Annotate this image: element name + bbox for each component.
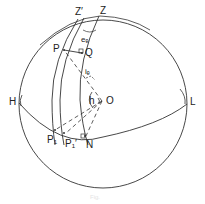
point-p <box>63 49 65 51</box>
point-n <box>84 135 86 137</box>
label-o: O <box>106 96 114 106</box>
horizon-tick-l <box>180 89 185 104</box>
label-z: Z <box>100 6 106 16</box>
figure-caption: Fig. <box>90 194 100 200</box>
dashed-o-p <box>64 50 102 101</box>
angle-ec-arc <box>83 30 96 32</box>
label-q: Q <box>85 48 93 58</box>
label-p1: P₁ <box>47 135 57 145</box>
label-e-c: eₑ <box>81 36 88 44</box>
celestial-sphere-diagram <box>0 0 205 204</box>
label-H: H <box>9 97 16 107</box>
point-p1prime <box>63 132 65 134</box>
horizon-front-arc <box>19 103 187 140</box>
label-z-prime: Z′ <box>75 7 83 17</box>
point-p1 <box>54 129 56 131</box>
sphere-outline <box>19 20 187 188</box>
horizon-tick-h <box>20 95 22 106</box>
label-p: P <box>53 44 60 54</box>
angle-ic-marker <box>86 76 95 80</box>
label-n: N <box>86 140 93 150</box>
label-p1-prime: P₁′ <box>65 139 77 149</box>
label-h: h <box>89 96 95 106</box>
point-q <box>81 52 83 54</box>
label-i-c: iₑ <box>85 68 90 76</box>
label-L: L <box>190 97 196 107</box>
